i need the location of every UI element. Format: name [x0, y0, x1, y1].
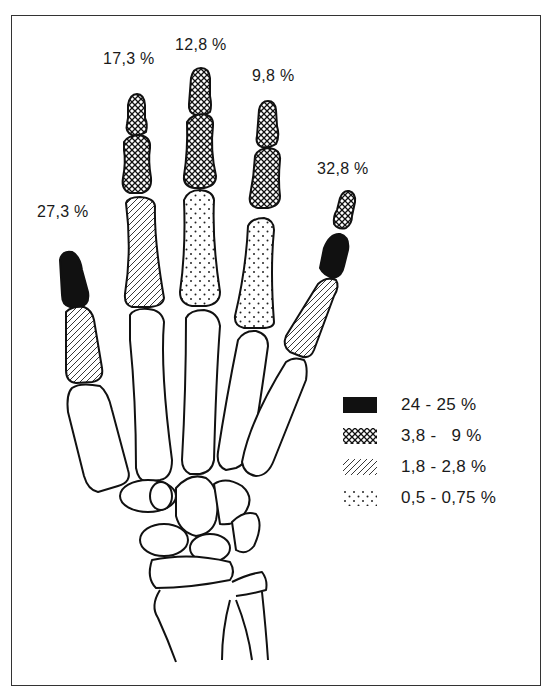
legend-label: 3,8 - 9 % [401, 426, 482, 446]
index-percentage: 17,3 % [103, 50, 155, 68]
legend: 24 - 25 % 3,8 - 9 % 1,8 - 2,8 % 0,5 - 0,… [343, 389, 496, 513]
little-percentage: 32,8 % [317, 160, 369, 178]
dotted-swatch-icon [343, 490, 377, 506]
diagonal-hatch-swatch-icon [343, 459, 377, 475]
legend-label: 0,5 - 0,75 % [401, 488, 496, 508]
solid-black-swatch-icon [343, 397, 377, 413]
ring-percentage: 9,8 % [252, 67, 294, 85]
middle-finger-bones [180, 68, 220, 474]
thumb-bones [60, 252, 129, 492]
crosshatch-swatch-icon [343, 428, 377, 444]
legend-label: 1,8 - 2,8 % [401, 457, 487, 477]
thumb-percentage: 27,3 % [37, 203, 89, 221]
legend-item: 1,8 - 2,8 % [343, 451, 496, 482]
middle-percentage: 12,8 % [175, 36, 227, 54]
legend-label: 24 - 25 % [401, 395, 476, 415]
legend-item: 24 - 25 % [343, 389, 496, 420]
legend-item: 0,5 - 0,75 % [343, 482, 496, 513]
legend-item: 3,8 - 9 % [343, 420, 496, 451]
index-finger-bones [123, 94, 172, 482]
carpal-bones [120, 476, 260, 562]
forearm-bones [150, 556, 268, 662]
